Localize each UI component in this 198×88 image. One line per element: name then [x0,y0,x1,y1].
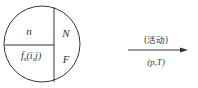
arrow-label-bottom: (p,T) [147,57,165,67]
circle-outline [4,6,80,82]
arrow-label-top: (活动) [144,35,169,45]
arrow-head-icon [180,48,188,53]
label-N: N [61,27,70,39]
label-F: F [62,53,70,65]
label-f-args: (i,j) [27,50,42,62]
state-circle [4,6,80,82]
diagram-canvas: n fs(i,j) N F (活动) (p,T) [0,0,198,88]
label-f: fs(i,j) [21,50,42,63]
label-n: n [26,25,32,37]
process-arrow [128,48,188,53]
